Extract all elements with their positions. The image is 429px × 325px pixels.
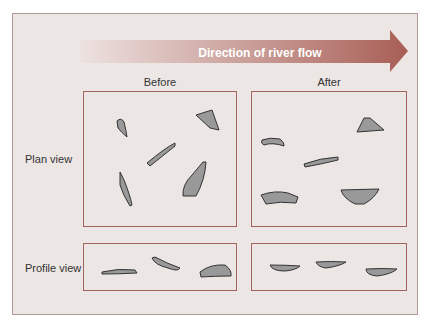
stones-illustration bbox=[0, 0, 429, 325]
